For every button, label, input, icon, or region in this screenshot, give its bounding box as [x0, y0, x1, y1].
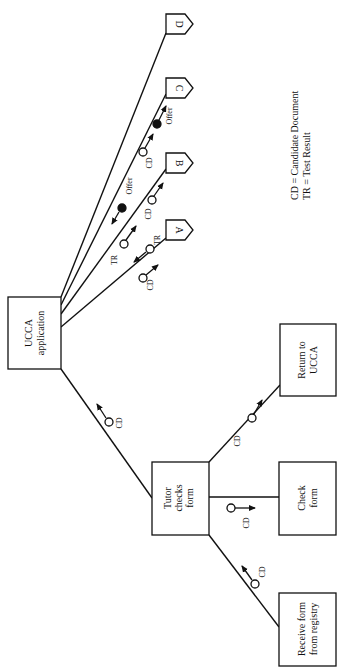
token-label: CD	[145, 157, 154, 168]
node-receive-form: Receive form from registry	[279, 593, 336, 666]
node-ucca-line1: UCCA	[23, 318, 34, 347]
node-tutor-line2: checks	[173, 484, 184, 511]
node-check-form: Check form	[279, 462, 336, 535]
token-tr-to-b: TR	[110, 226, 136, 265]
token-label: Offer	[165, 107, 174, 125]
connector-ucca-to-b	[61, 169, 166, 314]
diagram-canvas: UCCA application Tutor checks form Retur…	[0, 0, 355, 668]
token-label: Offer	[125, 177, 134, 195]
token-label: CD	[242, 517, 251, 528]
node-ucca-line2: application	[35, 311, 46, 355]
flag-b: B	[166, 153, 193, 173]
node-tutor-line3: form	[184, 488, 195, 508]
node-return-line1: Return to	[296, 341, 307, 379]
connector-ucca-to-tutor	[61, 369, 152, 498]
node-receive-line2: from registry	[308, 603, 319, 656]
flag-a-label: A	[174, 226, 185, 234]
token-label: TR	[110, 254, 119, 265]
flag-b-label: B	[174, 160, 185, 167]
token-cd-receive-to-tutor: CD	[242, 566, 267, 588]
token-cd-to-c: CD	[139, 134, 154, 169]
connector-tutor-to-receive	[209, 535, 279, 627]
token-cd-tutor-to-return: CD	[233, 400, 262, 447]
flag-c: C	[166, 78, 193, 98]
token-label: CD	[144, 208, 153, 219]
flag-a: A	[166, 220, 193, 240]
legend-line-tr: TR = Test Result	[301, 132, 312, 200]
token-label: TR	[153, 234, 162, 245]
legend: CD = Candidate Document TR = Test Result	[289, 91, 312, 200]
node-check-line2: form	[308, 488, 319, 508]
flag-d-label: D	[174, 20, 185, 27]
node-return-to-ucca: Return to UCCA	[280, 324, 336, 396]
legend-line-cd: CD = Candidate Document	[289, 91, 300, 200]
node-receive-line1: Receive form	[296, 602, 307, 656]
token-cd-tutor-to-check: CD	[227, 504, 255, 529]
node-tutor-checks-form: Tutor checks form	[152, 462, 209, 535]
flag-d: D	[166, 14, 193, 34]
token-label: CD	[258, 566, 267, 577]
node-return-line2: UCCA	[308, 345, 319, 374]
flag-c-label: C	[174, 85, 185, 92]
node-tutor-line1: Tutor	[162, 486, 173, 509]
token-label: CD	[115, 417, 124, 428]
connector-tutor-to-return	[209, 385, 280, 462]
token-cd-to-a: CD	[139, 265, 158, 291]
token-label: CD	[233, 435, 242, 446]
token-offer-to-c: Offer	[153, 106, 174, 128]
node-ucca-application: UCCA application	[8, 297, 61, 369]
node-check-line1: Check	[296, 485, 307, 511]
token-cd-to-b: CD	[144, 183, 163, 220]
token-label: CD	[146, 279, 155, 290]
token-tr-from-a: TR	[134, 234, 162, 262]
